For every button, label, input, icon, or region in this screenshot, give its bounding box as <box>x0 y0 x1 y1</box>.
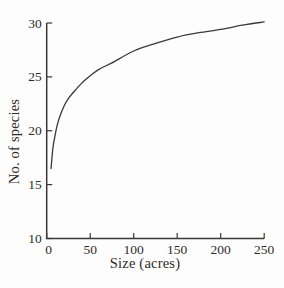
plot-area: 0501001502002501015202530 <box>0 0 284 288</box>
axes-lines <box>47 23 265 239</box>
species-area-figure: 0501001502002501015202530 No. of species… <box>0 0 284 288</box>
species-area-curve-line <box>51 22 264 169</box>
y-tick-label: 10 <box>28 231 42 246</box>
y-tick-label: 25 <box>28 69 42 84</box>
x-tick-label: 250 <box>254 242 275 257</box>
y-tick-label: 20 <box>28 123 42 138</box>
x-axis-title: Size (acres) <box>36 255 254 272</box>
y-tick-label: 15 <box>28 177 42 192</box>
y-tick-label: 30 <box>28 16 42 31</box>
y-axis-title: No. of species <box>6 82 23 202</box>
